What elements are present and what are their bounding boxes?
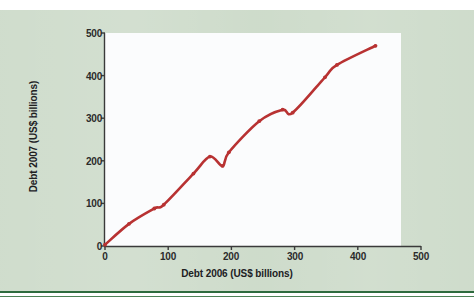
y-tick-label: 100 <box>72 198 102 209</box>
y-tick-label: 400 <box>72 71 102 82</box>
x-tick-label: 200 <box>216 251 246 262</box>
data-point <box>221 164 225 168</box>
x-tick-label: 500 <box>406 251 436 262</box>
x-tick-label: 300 <box>280 251 310 262</box>
data-point <box>291 111 295 115</box>
data-point <box>162 203 166 207</box>
data-point <box>374 44 378 48</box>
x-tick-label: 100 <box>153 251 183 262</box>
y-tick-label: 500 <box>72 28 102 39</box>
y-tick-label: 200 <box>72 156 102 167</box>
data-point <box>323 75 327 79</box>
data-point <box>335 63 339 67</box>
data-point <box>208 155 212 159</box>
data-point <box>281 108 285 112</box>
y-tick-label: 300 <box>72 113 102 124</box>
x-tick-label: 0 <box>90 251 120 262</box>
data-point <box>127 222 131 226</box>
x-axis-title: Debt 2006 (US$ billions) <box>0 268 474 279</box>
data-point <box>257 119 261 123</box>
figure-container: 0 100 200 300 400 500 0 100 200 300 400 … <box>0 0 474 303</box>
data-point <box>103 243 107 247</box>
data-series-line <box>105 46 376 245</box>
data-point <box>227 150 231 154</box>
footer-rule-secondary <box>0 296 474 297</box>
data-point <box>152 207 156 211</box>
data-series-markers <box>103 44 377 247</box>
data-point <box>192 172 196 176</box>
y-axis-title: Debt 2007 (US$ billions) <box>28 57 39 217</box>
x-tick-label: 400 <box>343 251 373 262</box>
footer-rule <box>0 291 474 293</box>
